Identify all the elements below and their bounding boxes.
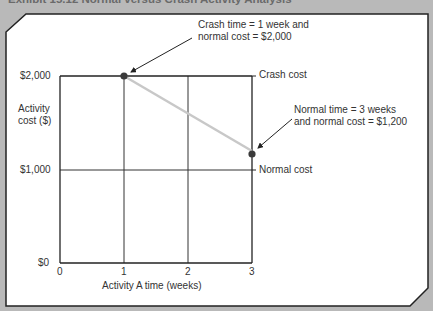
crash-cost-label: Crash cost [259,69,307,81]
crash-annotation-line2: normal cost = $2,000 [198,31,292,43]
normal-annotation-line2: and normal cost = $1,200 [294,116,407,128]
y-tick-1000: $1,000 [20,164,51,176]
y-tick-0: $0 [38,257,49,269]
x-tick-3: 3 [249,266,255,278]
crash-point [120,72,127,79]
chart-frame [0,0,433,311]
y-tick-2000: $2,000 [20,70,51,82]
normal-annotation-line1: Normal time = 3 weeks [294,104,396,116]
y-axis-label-line2: cost ($) [18,115,51,127]
x-tick-0: 0 [57,266,63,278]
x-tick-1: 1 [121,266,127,278]
x-axis-label: Activity A time (weeks) [102,280,201,292]
x-tick-2: 2 [185,266,191,278]
normal-cost-label: Normal cost [259,164,312,176]
crash-annotation-line1: Crash time = 1 week and [198,19,309,31]
normal-point [248,150,255,157]
y-axis-label-line1: Activity [18,103,50,115]
